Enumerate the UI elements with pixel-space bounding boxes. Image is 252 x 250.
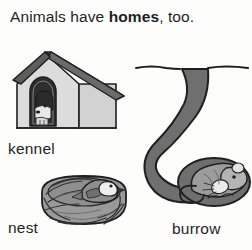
kennel-label: kennel bbox=[8, 140, 55, 158]
page-title: Animals have homes, too. bbox=[10, 8, 246, 26]
bird-nest-icon bbox=[38, 166, 130, 232]
nest-illustration bbox=[38, 166, 130, 232]
title-text-before: Animals have bbox=[10, 8, 109, 25]
title-text-after: , too. bbox=[159, 8, 194, 25]
illustration-page: Animals have homes, too. bbox=[0, 0, 252, 250]
kennel-illustration bbox=[12, 48, 128, 134]
burrow-illustration bbox=[134, 56, 250, 206]
nest-label: nest bbox=[8, 219, 38, 237]
burrow-tunnel-icon bbox=[134, 56, 250, 206]
dog-house-icon bbox=[12, 48, 128, 134]
burrow-label: burrow bbox=[172, 220, 221, 238]
title-emphasis-homes: homes bbox=[109, 8, 159, 25]
